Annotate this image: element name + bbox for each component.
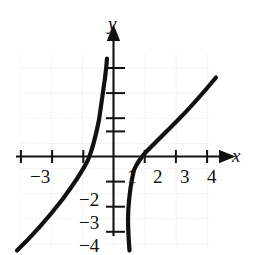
x-tick-label-1: 1 xyxy=(127,167,137,186)
y-tick-label-neg4: −4 xyxy=(79,236,99,255)
x-tick-label-4: 4 xyxy=(207,167,217,186)
x-tick-label-neg3: −3 xyxy=(30,167,50,186)
y-tick-label-neg3: −3 xyxy=(79,213,99,232)
y-tick-label-neg2: −2 xyxy=(79,190,99,209)
x-tick-label-3: 3 xyxy=(180,167,190,186)
y-axis-label: y xyxy=(108,14,116,33)
graph-figure xyxy=(0,0,257,255)
x-axis-label: x xyxy=(232,146,240,165)
x-tick-label-2: 2 xyxy=(153,167,163,186)
